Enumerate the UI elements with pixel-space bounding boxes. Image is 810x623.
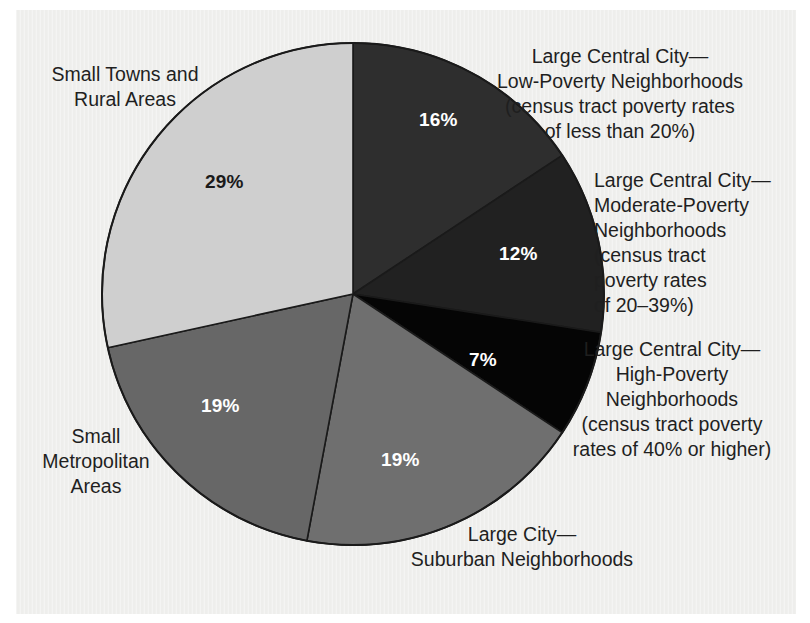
slice-value-7: 7% [469,350,497,369]
label-large-city-suburban-neighborhoods: Large City— Suburban Neighborhoods [372,522,672,572]
slice-value-19-small-metro: 19% [201,396,240,415]
pie-chart-figure: 16% 12% 7% 19% 19% 29% Small Towns and R… [0,0,810,623]
slice-value-29: 29% [205,172,244,191]
label-small-towns-and-rural-areas: Small Towns and Rural Areas [10,62,240,112]
slice-value-19-suburban: 19% [381,450,420,469]
label-large-central-city-moderate-poverty: Large Central City— Moderate-Poverty Nei… [594,168,809,318]
label-small-metropolitan-areas: Small Metropolitan Areas [6,424,186,499]
label-large-central-city-high-poverty: Large Central City— High-Poverty Neighbo… [536,337,808,462]
slice-value-12: 12% [499,244,538,263]
label-large-central-city-low-poverty: Large Central City— Low-Poverty Neighbor… [440,44,800,144]
